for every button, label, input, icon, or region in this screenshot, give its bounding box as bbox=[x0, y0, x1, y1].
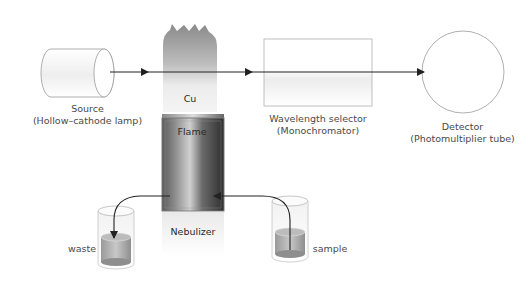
nebulizer-label: Nebulizer bbox=[163, 226, 223, 238]
source-sublabel: (Hollow–cathode lamp) bbox=[20, 115, 155, 127]
detector-label: Detector bbox=[415, 121, 510, 133]
waste-beaker-icon bbox=[98, 206, 134, 269]
wavelength-selector-sublabel: (Monochromator) bbox=[258, 125, 378, 137]
cu-element-label: Cu bbox=[175, 93, 205, 105]
detector-circle bbox=[422, 31, 504, 113]
detector-sublabel: (Photomultiplier tube) bbox=[400, 133, 525, 145]
source-label: Source bbox=[30, 103, 145, 115]
source-lamp-icon bbox=[41, 49, 114, 97]
sample-label: sample bbox=[310, 243, 350, 255]
flame-label: Flame bbox=[172, 126, 212, 138]
wavelength-selector-label: Wavelength selector bbox=[258, 113, 378, 125]
waste-label: waste bbox=[66, 243, 98, 255]
